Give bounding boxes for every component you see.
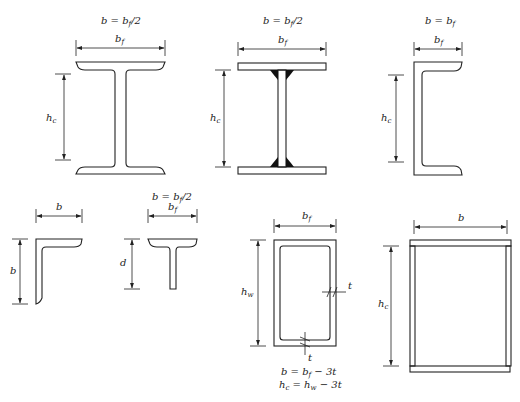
- equation-hss-height: hc = hw − 3t: [279, 379, 343, 392]
- rectangular-hss-section: bf t t hw b = bf − 3t hc = hw − 3t: [241, 210, 353, 392]
- height-label: hc: [210, 112, 220, 125]
- rolled-i-section: b = bf/2 bf hc: [46, 15, 165, 174]
- height-label: d: [120, 257, 126, 268]
- width-label: bf: [302, 210, 312, 223]
- bottom-flange-plate: [238, 167, 326, 174]
- channel-shape: [414, 62, 462, 175]
- top-flange-plate: [238, 63, 326, 70]
- tee-shape: [148, 239, 197, 289]
- fillet-weld: [270, 157, 278, 167]
- height-label: hc: [381, 112, 391, 125]
- angle-shape: [36, 239, 82, 304]
- fillet-weld: [286, 157, 294, 167]
- left-web-plate: [410, 246, 415, 366]
- height-label: hw: [241, 286, 253, 299]
- equation-hss-width: b = bf − 3t: [281, 366, 337, 379]
- equation-rolled-i: b = bf/2: [101, 15, 141, 28]
- width-label: bf: [168, 201, 178, 214]
- hss-outer-wall: [274, 240, 336, 346]
- bottom-plate: [410, 366, 510, 372]
- height-label: b: [10, 265, 16, 276]
- width-label: b: [56, 201, 62, 212]
- width-label: bf: [115, 33, 125, 46]
- thickness-label-right: t: [348, 280, 353, 291]
- height-label: hc: [46, 112, 56, 125]
- welded-i-section: b = bf/2 bf hc: [210, 15, 326, 174]
- fillet-weld: [270, 70, 278, 80]
- built-up-box-section: b hc: [378, 212, 511, 372]
- cross-sections-diagram: b = bf/2 bf hc b = bf/2 bf hc: [0, 0, 520, 402]
- right-web-plate: [506, 246, 511, 366]
- width-label: b: [458, 212, 464, 223]
- width-label: bf: [278, 34, 288, 47]
- fillet-weld: [286, 70, 294, 80]
- height-label: hc: [378, 298, 388, 311]
- width-label: bf: [434, 34, 444, 47]
- equation-welded-i: b = bf/2: [263, 15, 303, 28]
- thickness-label-bottom: t: [308, 352, 313, 363]
- rolled-i-shape: [76, 62, 165, 174]
- angle-section: b b: [10, 201, 82, 304]
- tee-section: b = bf/2 bf d: [120, 191, 197, 289]
- top-plate: [410, 240, 511, 246]
- channel-section: b = bf bf hc: [381, 15, 462, 175]
- web-plate: [278, 70, 286, 167]
- hss-inner-wall: [280, 246, 330, 340]
- equation-channel: b = bf: [425, 15, 457, 28]
